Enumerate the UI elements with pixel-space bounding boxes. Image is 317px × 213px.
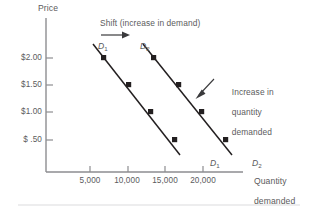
y-axis-title: Price: [38, 3, 58, 13]
demand-shift-figure: Price Quantity demanded $2.00 $1.50 $1.0…: [0, 0, 317, 213]
curve-label-d2-top-subscript: 2: [146, 45, 150, 52]
data-point-d2-100: [199, 109, 204, 114]
demand-curve-d2: [143, 44, 232, 155]
data-point-d1-050: [172, 137, 177, 142]
curve-label-d2-bottom: D2: [242, 148, 262, 178]
data-point-d1-150: [126, 82, 131, 87]
x-tick-label-10000: 10,000: [107, 176, 147, 186]
increase-annotation-line1: Increase in: [232, 87, 274, 97]
curve-label-d1-bottom: D1: [200, 148, 220, 178]
curve-label-d1-top: D1: [88, 31, 108, 61]
y-tick-label-1-00: $1.00: [6, 107, 42, 117]
increase-quantity-annotation: Increase in quantity demanded: [222, 78, 274, 147]
y-tick-label-2-00: $2.00: [6, 53, 42, 63]
increase-annotation-line2: quantity: [232, 107, 262, 117]
curve-label-d2-bottom-subscript: 2: [258, 162, 262, 169]
curve-label-d2-top: D2: [130, 31, 150, 61]
x-tick-label-15000: 15,000: [145, 176, 185, 186]
curve-label-d1-top-subscript: 1: [104, 45, 108, 52]
data-point-d2-200: [151, 55, 156, 60]
shift-annotation-title: Shift (increase in demand): [100, 19, 200, 29]
data-point-d1-100: [148, 109, 153, 114]
y-tick-label-1-50: $1.50: [6, 80, 42, 90]
x-tick-label-5000: 5,000: [70, 176, 110, 186]
y-axis-ticks: [46, 58, 53, 140]
movement-along-curve-arrow-icon: [196, 79, 215, 99]
x-axis-ticks: [90, 166, 203, 172]
data-point-d2-150: [176, 82, 181, 87]
x-axis-title-line2: demanded: [254, 196, 295, 206]
y-tick-label-0-50: $ .50: [6, 135, 42, 145]
curve-label-d1-bottom-subscript: 1: [216, 162, 220, 169]
increase-annotation-line3: demanded: [232, 127, 272, 137]
